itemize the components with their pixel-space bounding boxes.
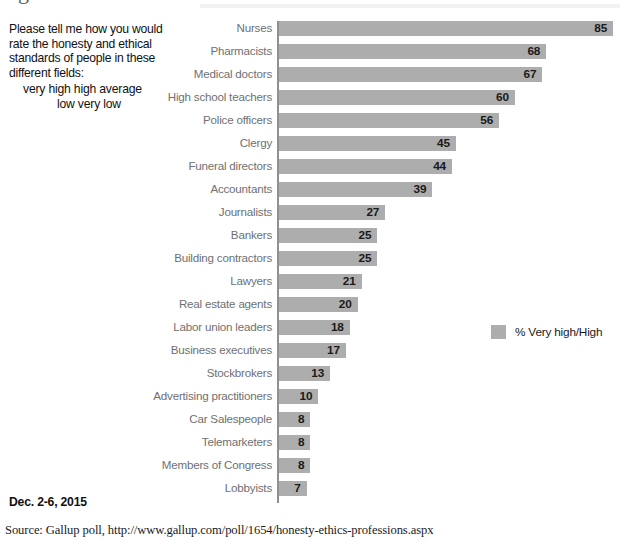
- bar-value-label: 20: [339, 297, 352, 312]
- survey-date-note: Dec. 2-6, 2015: [9, 495, 87, 509]
- bar-wrapper: 60: [279, 90, 515, 105]
- bar-wrapper: 27: [279, 205, 385, 220]
- bar-row: Nurses85: [0, 20, 622, 43]
- bar-value-label: 18: [331, 320, 344, 335]
- bar-category-label: Funeral directors: [42, 158, 272, 174]
- bar: 17: [279, 343, 346, 358]
- bar-wrapper: 18: [279, 320, 350, 335]
- bar-category-label: Bankers: [42, 227, 272, 243]
- bar-row: Stockbrokers13: [0, 365, 622, 388]
- bar: 8: [279, 458, 310, 473]
- bar-wrapper: 44: [279, 159, 452, 174]
- bar-category-label: High school teachers: [42, 89, 272, 105]
- bar: 56: [279, 113, 499, 128]
- bar-category-label: Telemarketers: [42, 434, 272, 450]
- bar-row: Funeral directors44: [0, 158, 622, 181]
- bar-category-label: Real estate agents: [42, 296, 272, 312]
- bar: 85: [279, 21, 613, 36]
- chart-legend: % Very high/High: [491, 325, 602, 339]
- bar-wrapper: 67: [279, 67, 542, 82]
- bar-category-label: Medical doctors: [42, 66, 272, 82]
- bar: 21: [279, 274, 362, 289]
- bar-row: Lawyers21: [0, 273, 622, 296]
- bar-row: Business executives17: [0, 342, 622, 365]
- bar-wrapper: 10: [279, 389, 318, 404]
- bar: 13: [279, 366, 330, 381]
- bar-value-label: 45: [437, 136, 450, 151]
- bar: 60: [279, 90, 515, 105]
- bar-value-label: 8: [298, 458, 304, 473]
- bar-category-label: Nurses: [42, 20, 272, 36]
- bar: 44: [279, 159, 452, 174]
- cropped-title-descender: g: [18, 0, 31, 9]
- bar-value-label: 56: [480, 113, 493, 128]
- source-note: Source: Gallup poll, http://www.gallup.c…: [5, 523, 433, 538]
- bar: 10: [279, 389, 318, 404]
- bar-category-label: Pharmacists: [42, 43, 272, 59]
- bar: 67: [279, 67, 542, 82]
- bar-wrapper: 8: [279, 412, 310, 427]
- bar-value-label: 68: [528, 44, 541, 59]
- bar-wrapper: 85: [279, 21, 613, 36]
- bar-row: High school teachers60: [0, 89, 622, 112]
- bar: 7: [279, 481, 307, 496]
- bar: 39: [279, 182, 432, 197]
- bar-category-label: Members of Congress: [42, 457, 272, 473]
- bar-row: Building contractors25: [0, 250, 622, 273]
- bar-row: Car Salespeople8: [0, 411, 622, 434]
- bar-wrapper: 68: [279, 44, 546, 59]
- bar-row: Bankers25: [0, 227, 622, 250]
- bar-wrapper: 39: [279, 182, 432, 197]
- bar: 25: [279, 228, 377, 243]
- bar-value-label: 85: [594, 21, 607, 36]
- bar-category-label: Lawyers: [42, 273, 272, 289]
- bar-value-label: 60: [496, 90, 509, 105]
- bar-wrapper: 17: [279, 343, 346, 358]
- bar-value-label: 17: [327, 343, 340, 358]
- bar-wrapper: 8: [279, 458, 310, 473]
- bar-row: Journalists27: [0, 204, 622, 227]
- bar-row: Police officers56: [0, 112, 622, 135]
- bar-wrapper: 25: [279, 228, 377, 243]
- bar: 27: [279, 205, 385, 220]
- bar: 20: [279, 297, 358, 312]
- bar-category-label: Lobbyists: [42, 480, 272, 496]
- bar-category-label: Labor union leaders: [42, 319, 272, 335]
- bar-row: Members of Congress8: [0, 457, 622, 480]
- bar-wrapper: 8: [279, 435, 310, 450]
- bar-value-label: 7: [294, 481, 300, 496]
- bar-value-label: 27: [366, 205, 379, 220]
- bar-value-label: 21: [343, 274, 356, 289]
- bar-category-label: Police officers: [42, 112, 272, 128]
- bar-value-label: 25: [359, 251, 372, 266]
- bar-wrapper: 45: [279, 136, 456, 151]
- bar-row: Telemarketers8: [0, 434, 622, 457]
- bar-row: Pharmacists68: [0, 43, 622, 66]
- bar-value-label: 39: [414, 182, 427, 197]
- bar-wrapper: 20: [279, 297, 358, 312]
- bar-category-label: Clergy: [42, 135, 272, 151]
- bar-wrapper: 21: [279, 274, 362, 289]
- bar: 8: [279, 435, 310, 450]
- bar-value-label: 44: [433, 159, 446, 174]
- bar-value-label: 10: [300, 389, 313, 404]
- bar-row: Medical doctors67: [0, 66, 622, 89]
- bar-wrapper: 13: [279, 366, 330, 381]
- bar: 18: [279, 320, 350, 335]
- bar-category-label: Accountants: [42, 181, 272, 197]
- bar-value-label: 13: [311, 366, 324, 381]
- bar-row: Accountants39: [0, 181, 622, 204]
- bar-row: Real estate agents20: [0, 296, 622, 319]
- bar-row: Lobbyists7: [0, 480, 622, 503]
- bar: 68: [279, 44, 546, 59]
- legend-swatch: [491, 325, 506, 339]
- bar: 25: [279, 251, 377, 266]
- bar-category-label: Building contractors: [42, 250, 272, 266]
- bar-value-label: 67: [524, 67, 537, 82]
- bar-category-label: Car Salespeople: [42, 411, 272, 427]
- bar-category-label: Advertising practitioners: [42, 388, 272, 404]
- bar-category-label: Business executives: [42, 342, 272, 358]
- bar: 45: [279, 136, 456, 151]
- bar-value-label: 8: [298, 412, 304, 427]
- bar-row: Clergy45: [0, 135, 622, 158]
